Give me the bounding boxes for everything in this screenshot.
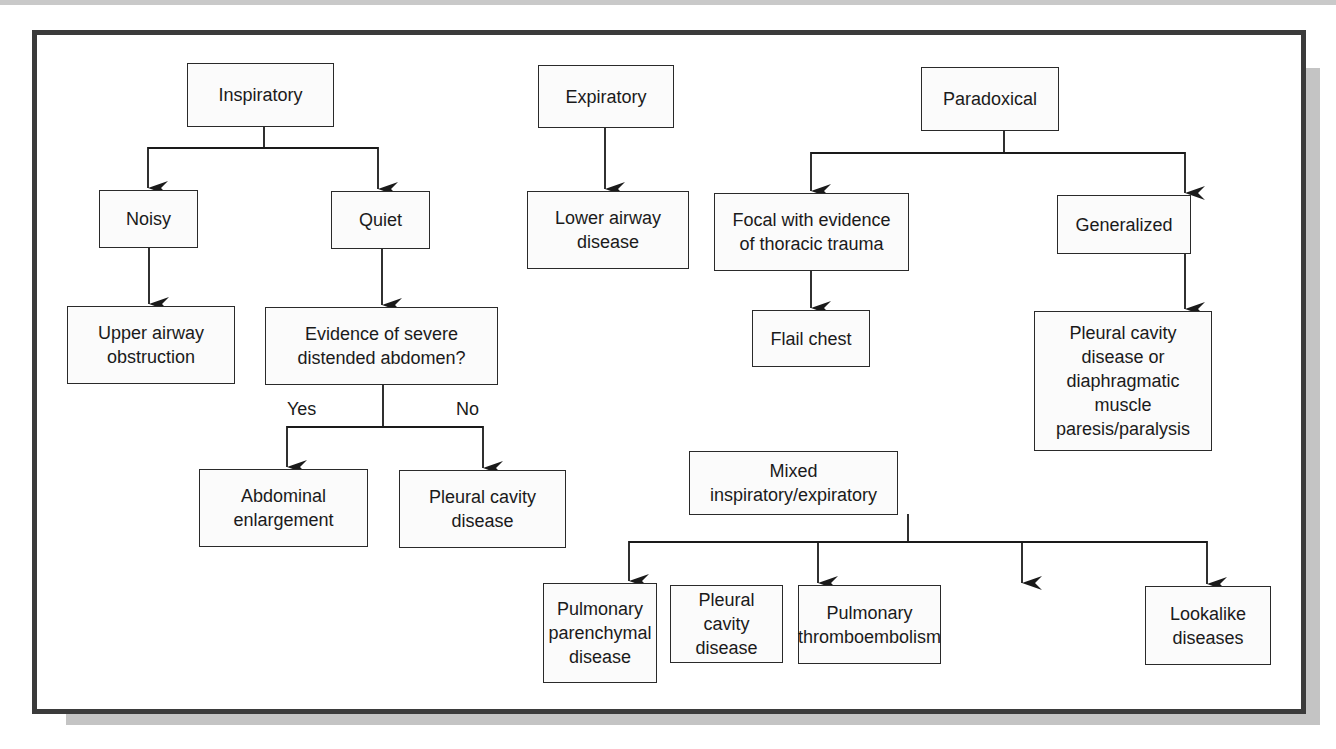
node-evidence-distended-abdomen: Evidence of severe distended abdomen? [265, 307, 498, 385]
node-pleural-cavity-disease-bottom: Pleural cavity disease [670, 585, 783, 663]
connector-inspiratory [148, 127, 378, 189]
node-evidence-label: Evidence of severe distended abdomen? [286, 322, 477, 370]
node-pleural-diaphragmatic: Pleural cavity disease or diaphragmatic … [1034, 311, 1212, 451]
node-abdominal-label: Abdominal enlargement [222, 484, 345, 532]
node-inspiratory: Inspiratory [187, 63, 334, 127]
node-abdominal-enlargement: Abdominal enlargement [199, 469, 368, 547]
node-lower-airway-label: Lower airway disease [542, 206, 674, 254]
node-quiet-label: Quiet [359, 208, 402, 232]
node-pleural-diaphragmatic-label: Pleural cavity disease or diaphragmatic … [1051, 321, 1195, 441]
node-flail-chest: Flail chest [752, 310, 870, 367]
node-pleural-cavity-disease-left: Pleural cavity disease [399, 470, 566, 548]
node-focal-thoracic-trauma: Focal with evidence of thoracic trauma [714, 193, 909, 271]
connector-paradoxical [811, 130, 1185, 193]
node-quiet: Quiet [331, 191, 430, 249]
node-lookalike-diseases: Lookalike diseases [1145, 586, 1271, 665]
node-expiratory: Expiratory [538, 65, 674, 128]
node-expiratory-label: Expiratory [565, 85, 646, 109]
node-inspiratory-label: Inspiratory [218, 83, 302, 107]
connector-mixed [629, 514, 1207, 584]
node-pulmonary-thromboembolism: Pulmonary thromboembolism [798, 585, 941, 664]
node-mixed-inspiratory-expiratory: Mixed inspiratory/expiratory [689, 451, 898, 515]
edge-label-yes: Yes [287, 398, 316, 420]
node-flail-label: Flail chest [770, 327, 851, 351]
node-generalized-label: Generalized [1075, 213, 1172, 237]
node-noisy: Noisy [99, 190, 198, 248]
node-lookalike-label: Lookalike diseases [1160, 602, 1256, 650]
node-pulmonary-parenchymal-label: Pulmonary parenchymal disease [548, 597, 652, 669]
node-focal-label: Focal with evidence of thoracic trauma [725, 208, 898, 256]
edge-label-no: No [456, 398, 479, 420]
node-pleural-left-label: Pleural cavity disease [422, 485, 543, 533]
node-pulmonary-parenchymal-disease: Pulmonary parenchymal disease [543, 583, 657, 683]
node-mixed-label: Mixed inspiratory/expiratory [696, 459, 891, 507]
node-pleural-bottom-label: Pleural cavity disease [675, 588, 778, 660]
node-upper-airway-label: Upper airway obstruction [86, 321, 216, 369]
connector-evidence [287, 384, 483, 468]
node-noisy-label: Noisy [126, 207, 171, 231]
node-upper-airway-obstruction: Upper airway obstruction [67, 306, 235, 384]
node-lower-airway-disease: Lower airway disease [527, 191, 689, 269]
node-generalized: Generalized [1057, 195, 1191, 254]
node-thromboembolism-label: Pulmonary thromboembolism [798, 601, 941, 649]
node-paradoxical-label: Paradoxical [943, 87, 1037, 111]
node-paradoxical: Paradoxical [921, 67, 1059, 131]
